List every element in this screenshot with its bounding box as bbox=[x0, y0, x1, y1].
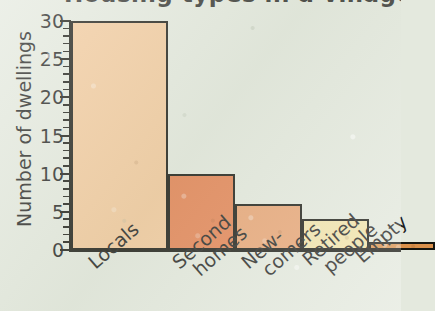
x-tick-label-locals: Locals bbox=[85, 219, 142, 272]
x-tick-label-line: Locals bbox=[84, 218, 143, 273]
x-tick-label-second-homes: Secondhomes bbox=[169, 209, 250, 287]
